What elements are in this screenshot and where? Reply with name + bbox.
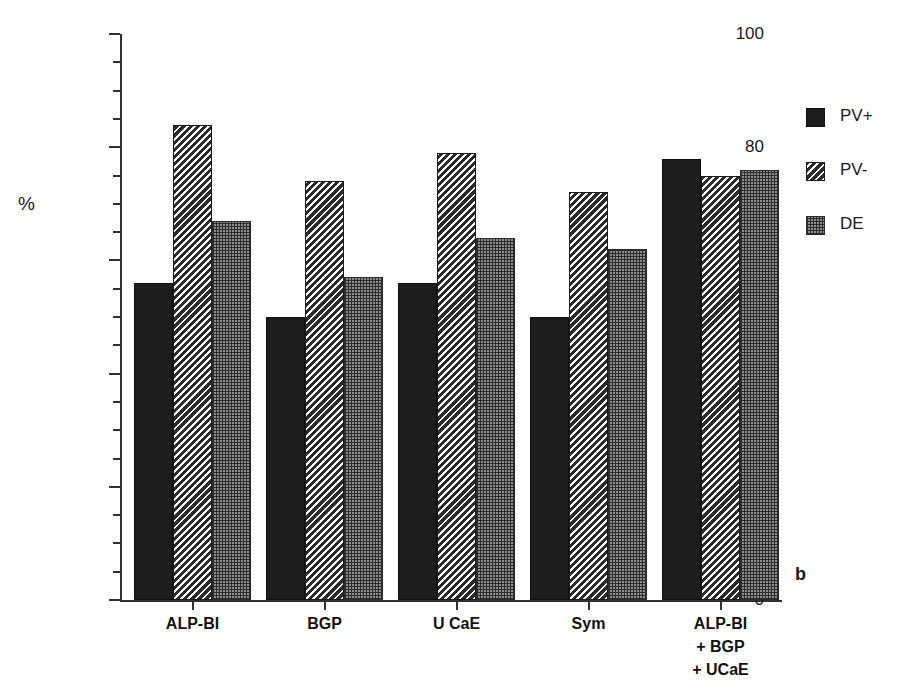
bar <box>569 192 608 600</box>
y-axis-line <box>120 34 122 600</box>
bar <box>344 277 383 600</box>
y-tick-major <box>109 373 120 375</box>
y-tick-minor <box>113 90 120 92</box>
x-category-label: Sym <box>514 612 664 635</box>
x-axis-line <box>120 600 782 602</box>
y-tick-major <box>109 486 120 488</box>
bar <box>266 317 305 600</box>
x-tick <box>720 600 722 610</box>
y-tick-minor <box>113 231 120 233</box>
bar <box>608 249 647 600</box>
y-tick-minor <box>113 344 120 346</box>
bar <box>740 170 779 600</box>
x-category-label: U CaE <box>382 612 532 635</box>
y-tick-minor <box>113 61 120 63</box>
bar <box>662 159 701 600</box>
bar <box>212 221 251 600</box>
bar <box>173 125 212 600</box>
bar <box>437 153 476 600</box>
bar <box>701 176 740 601</box>
y-tick-minor <box>113 401 120 403</box>
x-category-label: ALP-BI + BGP + UCaE <box>646 612 796 681</box>
bar-chart-figure: % 020406080100 ALP-BIBGPU CaESymALP-BI +… <box>0 0 897 685</box>
panel-letter: b <box>795 564 806 585</box>
legend-label: DE <box>840 214 864 234</box>
x-tick <box>588 600 590 610</box>
x-tick <box>456 600 458 610</box>
y-tick-minor <box>113 288 120 290</box>
legend-label: PV- <box>840 160 867 180</box>
x-tick <box>192 600 194 610</box>
legend-label: PV+ <box>840 106 873 126</box>
bar <box>398 283 437 600</box>
y-tick-major <box>109 599 120 601</box>
legend-swatch-icon <box>806 108 825 127</box>
y-axis-label: % <box>18 193 35 215</box>
legend-swatch-icon <box>806 216 825 235</box>
y-tick-minor <box>113 175 120 177</box>
y-tick-minor <box>113 514 120 516</box>
y-tick-minor <box>113 316 120 318</box>
bar <box>305 181 344 600</box>
y-tick-label: 80 <box>745 137 764 157</box>
bar <box>134 283 173 600</box>
bar <box>530 317 569 600</box>
x-tick <box>324 600 326 610</box>
x-category-label: BGP <box>250 612 400 635</box>
y-tick-minor <box>113 571 120 573</box>
y-tick-minor <box>113 458 120 460</box>
legend-swatch-icon <box>806 162 825 181</box>
x-category-label: ALP-BI <box>118 612 268 635</box>
y-tick-minor <box>113 542 120 544</box>
bar <box>476 238 515 600</box>
y-tick-minor <box>113 203 120 205</box>
y-tick-minor <box>113 429 120 431</box>
y-tick-label: 100 <box>736 24 764 44</box>
y-tick-major <box>109 33 120 35</box>
plot-area: 020406080100 <box>120 34 780 600</box>
y-tick-major <box>109 146 120 148</box>
y-tick-major <box>109 259 120 261</box>
y-tick-minor <box>113 118 120 120</box>
